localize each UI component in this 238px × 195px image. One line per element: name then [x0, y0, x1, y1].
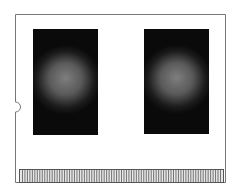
memory-chip-right — [144, 29, 209, 134]
memory-module-diagram — [0, 0, 238, 195]
edge-connector — [20, 170, 224, 183]
memory-chip-left — [33, 29, 98, 135]
